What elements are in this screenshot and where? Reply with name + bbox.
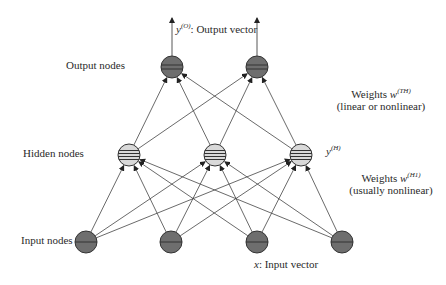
output-nodes-label: Output nodes — [66, 59, 125, 71]
weights-top-note: (linear or nonlinear) — [337, 100, 426, 112]
weights-bottom-label: Weights w(H1) (usually nonlinear) — [336, 172, 446, 196]
output-node — [246, 56, 268, 78]
input-node — [160, 231, 182, 253]
connection-edge — [134, 78, 167, 145]
network-nodes — [75, 56, 353, 253]
connection-edge — [176, 166, 210, 232]
connection-edge — [306, 166, 337, 232]
input-vector-label: x: Input vector — [254, 258, 318, 270]
hidden-nodes-label: Hidden nodes — [23, 147, 84, 159]
connection-edge — [262, 78, 296, 145]
input-node — [331, 231, 353, 253]
connection-edge — [140, 160, 332, 238]
hidden-node — [204, 144, 226, 166]
hidden-node — [290, 144, 312, 166]
input-nodes-label: Input nodes — [21, 234, 73, 246]
output-node — [161, 56, 183, 78]
connection-edge — [138, 74, 247, 149]
hidden-vector-label: y(H) — [326, 145, 341, 157]
weights-top-label: Weights w(TH) (linear or nonlinear) — [318, 88, 444, 112]
connection-edge — [139, 162, 248, 236]
connection-edge — [182, 74, 292, 149]
connection-edge — [177, 78, 210, 145]
input-node — [246, 231, 268, 253]
connection-edge — [225, 162, 333, 236]
connection-edge — [134, 166, 166, 232]
connection-edge — [91, 166, 124, 232]
connection-edge — [220, 78, 252, 145]
weights-bottom-note: (usually nonlinear) — [349, 184, 432, 196]
input-node — [75, 231, 97, 253]
hidden-node — [118, 144, 140, 166]
output-vector-label: y(O): Output vector — [176, 23, 257, 35]
